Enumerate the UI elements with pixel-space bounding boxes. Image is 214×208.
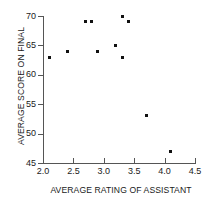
data-point — [90, 20, 93, 23]
x-tick-label: 3.5 — [121, 167, 147, 176]
x-tick-mark — [195, 158, 196, 164]
y-tick-label: 55 — [12, 100, 36, 109]
data-point — [66, 50, 69, 53]
plot-area — [43, 16, 195, 163]
data-point — [114, 44, 117, 47]
data-point — [84, 20, 87, 23]
y-tick-label: 50 — [12, 129, 36, 138]
data-point — [48, 56, 51, 59]
y-tick-label: 60 — [12, 70, 36, 79]
x-axis-line — [43, 163, 196, 164]
x-tick-label: 2.5 — [60, 167, 86, 176]
data-point — [169, 150, 172, 153]
x-tick-label: 2.0 — [30, 167, 56, 176]
data-point — [121, 15, 124, 18]
scatter-chart: AVERAGE SCORE ON FINAL 455055606570 2.02… — [0, 0, 214, 208]
data-point — [145, 114, 148, 117]
x-tick-label: 4.5 — [182, 167, 208, 176]
data-point — [121, 56, 124, 59]
x-tick-label: 3.0 — [91, 167, 117, 176]
data-point — [96, 50, 99, 53]
y-tick-label: 70 — [12, 12, 36, 21]
y-axis-label: AVERAGE SCORE ON FINAL — [14, 6, 28, 166]
data-point — [127, 20, 130, 23]
y-tick-label: 65 — [12, 41, 36, 50]
x-tick-label: 4.0 — [152, 167, 178, 176]
x-axis-label: AVERAGE RATING OF ASSISTANT — [28, 185, 214, 195]
